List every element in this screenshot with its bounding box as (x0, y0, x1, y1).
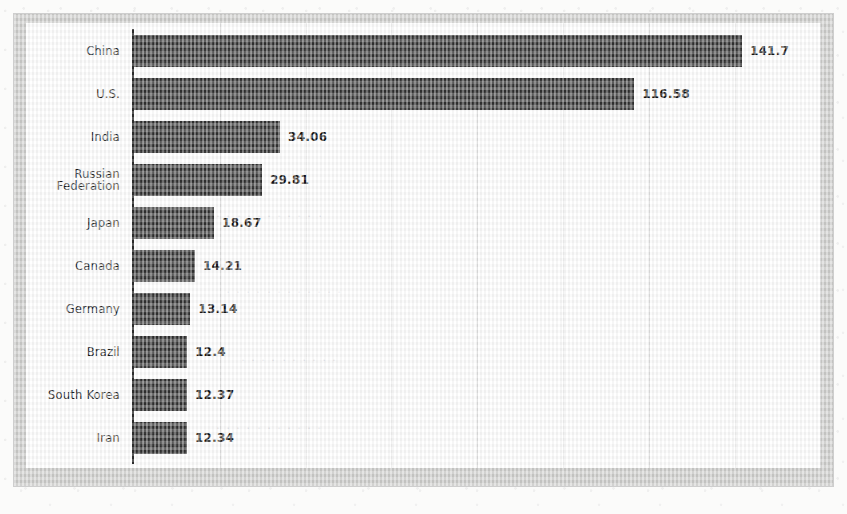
bar[interactable] (134, 250, 195, 282)
category-label: Brazil (26, 346, 120, 359)
bar[interactable] (134, 121, 280, 153)
bar[interactable] (134, 35, 742, 67)
bar[interactable] (134, 293, 190, 325)
category-label: Japan (26, 217, 120, 230)
category-label: India (26, 131, 120, 144)
bar[interactable] (134, 379, 187, 411)
bar-row[interactable]: Germany13.14 (26, 293, 821, 325)
bar-value-label: 14.21 (203, 259, 242, 273)
category-label: Iran (26, 432, 120, 445)
bar[interactable] (134, 336, 187, 368)
bar-row[interactable]: Iran12.34 (26, 422, 821, 454)
bar-row[interactable]: South Korea12.37 (26, 379, 821, 411)
figure-frame-border: ‧ ‧ ‧ ‧ ‧ ‧ ‧ ‧ ‧ ‧ ‧ ‧ ‧ ‧ ‧ ‧ ‧ ‧ ‧ ‧ … (14, 14, 833, 486)
bar-value-label: 116.58 (642, 87, 690, 101)
bar-row[interactable]: Japan18.67 (26, 207, 821, 239)
category-label: China (26, 45, 120, 58)
category-label: Russian Federation (26, 168, 120, 193)
bar[interactable] (134, 164, 262, 196)
bar[interactable] (134, 422, 187, 454)
bar-value-label: 13.14 (198, 302, 237, 316)
category-label: Canada (26, 260, 120, 273)
bar-value-label: 141.7 (750, 44, 789, 58)
plot-area: ‧ ‧ ‧ ‧ ‧ ‧ ‧ ‧ ‧ ‧ ‧ ‧ ‧ ‧ ‧ ‧ ‧ ‧ ‧ ‧ … (26, 23, 821, 468)
bar-row[interactable]: U.S.116.58 (26, 78, 821, 110)
bar-row[interactable]: Canada14.21 (26, 250, 821, 282)
bar-value-label: 18.67 (222, 216, 261, 230)
category-label: South Korea (26, 389, 120, 402)
bar-row[interactable]: Brazil12.4 (26, 336, 821, 368)
bar[interactable] (134, 207, 214, 239)
bar-value-label: 12.34 (195, 431, 234, 445)
bar-row[interactable]: Russian Federation29.81 (26, 164, 821, 196)
chart-screenshot: ‧ ‧ ‧ ‧ ‧ ‧ ‧ ‧ ‧ ‧ ‧ ‧ ‧ ‧ ‧ ‧ ‧ ‧ ‧ ‧ … (0, 0, 847, 514)
bar-value-label: 12.37 (195, 388, 234, 402)
bar-value-label: 29.81 (270, 173, 309, 187)
bar-value-label: 34.06 (288, 130, 327, 144)
bar[interactable] (134, 78, 634, 110)
bar-value-label: 12.4 (195, 345, 226, 359)
bar-row[interactable]: India34.06 (26, 121, 821, 153)
category-label: Germany (26, 303, 120, 316)
bar-row[interactable]: China141.7 (26, 35, 821, 67)
category-label: U.S. (26, 88, 120, 101)
